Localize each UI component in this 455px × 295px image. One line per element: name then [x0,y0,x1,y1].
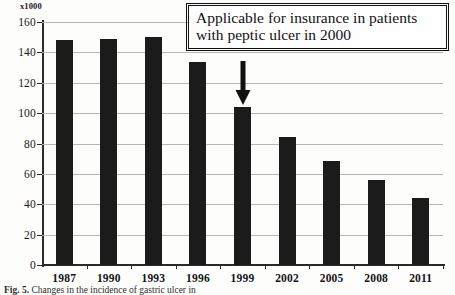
x-axis-tick-mark [176,265,177,269]
x-axis-tick-mark [265,265,266,269]
x-axis-tick-label: 1999 [231,272,255,284]
y-axis-tick-mark [37,144,42,145]
caption-label: Fig. 5. [4,285,29,295]
bar [412,198,429,265]
x-axis-tick-mark [220,265,221,269]
bar [145,37,162,265]
x-axis-tick-mark [443,265,444,269]
down-arrow-icon [235,61,251,107]
y-axis-tick-mark [37,204,42,205]
x-axis-tick-label: 1993 [141,272,165,284]
x-axis-tick-mark [309,265,310,269]
callout-line-2: with peptic ulcer in 2000 [196,26,439,43]
x-axis-tick-mark [131,265,132,269]
y-axis-tick-mark [37,265,42,266]
x-axis-tick-label: 2008 [364,272,388,284]
figure-caption: Fig. 5. Changes in the incidence of gast… [4,285,452,295]
y-axis-tick-mark [37,113,42,114]
y-axis-tick-mark [37,22,42,23]
caption-text: Changes in the incidence of gastric ulce… [31,285,195,295]
y-axis-tick-label: 80 [24,138,36,150]
x-axis-tick-label: 1996 [186,272,210,284]
callout-line-1: Applicable for insurance in patients [196,9,439,26]
figure: x1000 020406080100120140160 198719901993… [0,0,455,295]
bar [189,62,206,265]
callout-annotation: Applicable for insurance in patients wit… [188,5,447,49]
y-axis-unit-label: x1000 [20,1,42,11]
bar [279,137,296,265]
x-axis-tick-label: 2005 [320,272,344,284]
x-axis-tick-mark [354,265,355,269]
x-axis-tick-label: 1990 [97,272,121,284]
y-axis-tick-label: 0 [30,259,36,271]
y-axis-tick-label: 140 [18,46,36,58]
gridline [42,265,443,266]
bar [368,180,385,265]
y-axis-tick-mark [37,174,42,175]
y-axis-tick-label: 60 [24,168,36,180]
y-axis-tick-mark [37,83,42,84]
y-axis-tick-mark [37,235,42,236]
y-axis-tick-mark [37,52,42,53]
y-axis-tick-label: 20 [24,229,36,241]
bar [56,40,73,265]
bar [100,39,117,265]
bar [323,161,340,265]
x-axis-tick-label: 1987 [52,272,76,284]
bar [234,107,251,265]
plot-area: 020406080100120140160 [42,22,443,265]
x-axis-tick-label: 2011 [409,272,432,284]
x-axis-tick-label: 2002 [275,272,299,284]
x-axis-tick-mark [398,265,399,269]
y-axis-tick-label: 100 [18,107,36,119]
y-axis-tick-label: 40 [24,198,36,210]
x-axis-tick-mark [87,265,88,269]
y-axis-tick-label: 160 [18,16,36,28]
y-axis-tick-label: 120 [18,77,36,89]
